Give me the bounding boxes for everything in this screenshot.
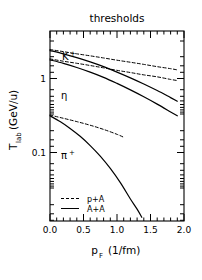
x-tick-labels: 0.0 0.5 1.0 1.5 2.0 — [43, 225, 192, 235]
x-axis-symbol: p — [91, 244, 98, 256]
legend-label-pA: p+A — [87, 195, 105, 204]
y-axis-ticks-left — [50, 41, 57, 220]
y-axis-unit: (GeV/u) — [7, 90, 19, 130]
y-axis-subscript: lab — [15, 132, 23, 143]
x-tick-label: 1.5 — [143, 225, 157, 235]
curve-label-kplus-sup: + — [70, 50, 76, 58]
x-tick-label: 2.0 — [177, 225, 192, 235]
curve-eta-a-a — [50, 60, 177, 116]
data-curves — [50, 50, 177, 218]
x-tick-label: 1.0 — [110, 225, 125, 235]
x-axis-title: p F (1/fm) — [91, 244, 140, 260]
x-tick-label: 0.5 — [76, 225, 90, 235]
x-axis-ticks-bottom — [50, 214, 184, 221]
legend-label-AA: A+A — [87, 205, 105, 214]
curve-k--a-a — [50, 51, 177, 102]
x-tick-label: 0.0 — [43, 225, 58, 235]
curve-label-eta: η — [61, 90, 67, 101]
y-axis-ticks-right — [177, 41, 184, 220]
x-axis-subscript: F — [99, 252, 103, 260]
y-tick-labels: 1 0.1 — [32, 74, 46, 158]
plot-frame — [50, 31, 184, 221]
chart-svg: thresholds — [0, 0, 202, 280]
y-axis-symbol: T — [7, 143, 19, 151]
curve-pi--p-a — [50, 115, 124, 137]
x-axis-unit: (1/fm) — [108, 244, 140, 256]
chart-title: thresholds — [90, 12, 145, 24]
figure-container: thresholds — [0, 0, 202, 280]
x-axis-ticks-top — [50, 31, 184, 38]
y-tick-label: 1 — [40, 74, 46, 84]
curve-label-piplus-sup: + — [69, 149, 75, 157]
curve-eta-p-a — [50, 59, 177, 81]
y-tick-label: 0.1 — [32, 148, 46, 158]
curve-label-piplus: π — [61, 150, 67, 161]
y-axis-title: T lab (GeV/u) — [7, 90, 23, 151]
curve-label-kplus: K — [62, 51, 69, 62]
legend: p+A A+A — [61, 195, 105, 214]
